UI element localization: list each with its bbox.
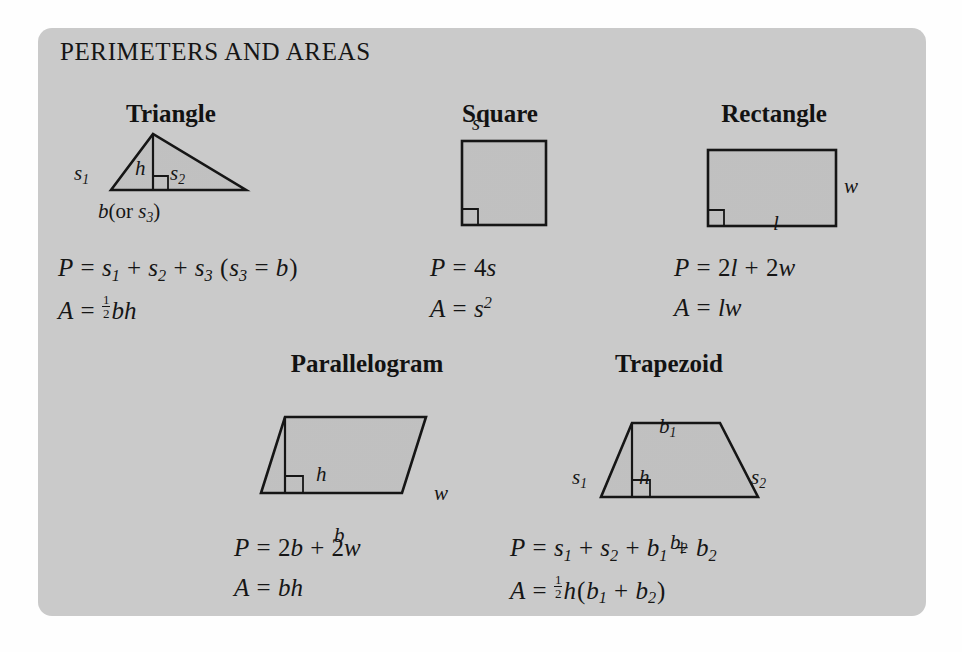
rectangle-figure (674, 116, 894, 236)
parallelogram-label-h: h (316, 462, 327, 487)
shape-title-trapezoid: Trapezoid (554, 350, 784, 378)
formula-card: PERIMETERS AND AREAS Triangle s1 s2 h b(… (38, 28, 926, 616)
parallelogram-label-w: w (434, 481, 448, 506)
triangle-label-s1: s1 (74, 161, 89, 188)
rectangle-perimeter-formula: P = 2l + 2w (674, 254, 795, 282)
square-figure (430, 116, 590, 236)
triangle-label-s2: s2 (170, 161, 185, 188)
trapezoid-label-b1: b1 (659, 414, 676, 441)
parallelogram-area-formula: A = bh (234, 574, 303, 602)
square-area-formula: A = s2 (430, 294, 492, 323)
triangle-figure (58, 116, 278, 236)
trapezoid-area-formula: A = 12h(b1 + b2) (510, 574, 666, 608)
square-perimeter-formula: P = 4s (430, 254, 496, 282)
rectangle-label-l: l (773, 211, 779, 236)
rectangle-label-w: w (844, 174, 858, 199)
trapezoid-label-s1: s1 (572, 465, 587, 492)
parallelogram-perimeter-formula: P = 2b + 2w (234, 534, 361, 562)
triangle-area-formula: A = 12bh (58, 294, 136, 325)
page-root: PERIMETERS AND AREAS Triangle s1 s2 h b(… (0, 0, 962, 652)
trapezoid-figure (530, 388, 810, 528)
triangle-label-h: h (135, 156, 146, 181)
trapezoid-label-h: h (639, 465, 650, 490)
square-label-s: s (472, 111, 480, 136)
page-title: PERIMETERS AND AREAS (60, 38, 371, 66)
shape-title-parallelogram: Parallelogram (234, 350, 500, 378)
trapezoid-perimeter-formula: P = s1 + s2 + b1 + b2 (510, 534, 717, 566)
trapezoid-label-s2: s2 (751, 465, 766, 492)
parallelogram-figure (234, 388, 494, 528)
rectangle-area-formula: A = lw (674, 294, 742, 322)
triangle-perimeter-formula: P = s1 + s2 + s3 (s3 = b) (58, 254, 299, 286)
triangle-label-base: b(or s3) (98, 199, 160, 226)
